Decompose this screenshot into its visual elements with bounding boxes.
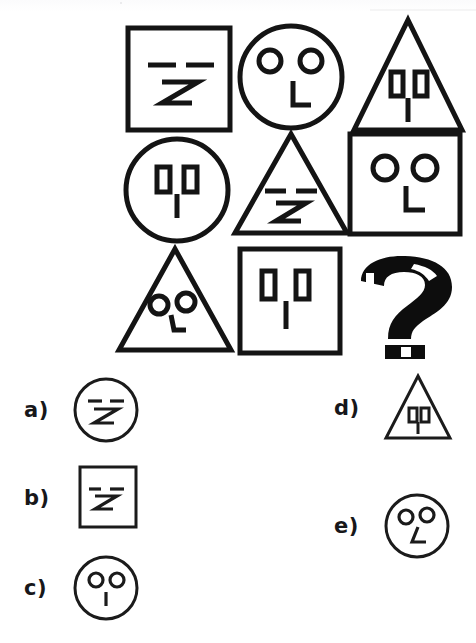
- figure-square-dash-z: [124, 24, 234, 134]
- answer-option-e[interactable]: e): [334, 490, 452, 562]
- scan-artifact: [0, 0, 476, 12]
- answer-option-e-label: e): [334, 516, 374, 537]
- matrix-cell-r2c1: [122, 134, 232, 246]
- answer-option-a-label: a): [24, 400, 64, 421]
- figure-triangle-round-hook: [114, 244, 236, 356]
- figure-triangle-dash-z: [230, 129, 352, 239]
- answer-option-d-figure: [382, 372, 454, 444]
- matrix-cell-r2c3: [346, 130, 464, 240]
- answer-option-b-label: b): [24, 488, 64, 509]
- figure-circle-round-hook-small: [382, 490, 452, 562]
- figure-square-dash-z-small: [72, 464, 140, 532]
- answer-option-c-label: c): [24, 578, 64, 599]
- matrix-cell-r1c3: [349, 14, 467, 136]
- answer-option-d[interactable]: d): [334, 372, 454, 444]
- figure-circle-dash-z: [72, 376, 140, 444]
- answer-option-a[interactable]: a): [24, 376, 140, 444]
- matrix-cell-r3c1: [114, 244, 236, 356]
- figure-circle-round-hook: [237, 19, 345, 135]
- answer-option-c-figure: [72, 552, 140, 624]
- answer-option-b[interactable]: b): [24, 464, 140, 532]
- question-mark-icon: [353, 255, 461, 359]
- figure-triangle-rect-line-small: [382, 372, 454, 444]
- matrix-grid: [108, 12, 468, 357]
- figure-triangle-rect-line: [349, 14, 467, 136]
- figure-circle-rect-line: [122, 134, 232, 246]
- figure-circle-round-line: [72, 552, 140, 624]
- matrix-cell-r2c2: [230, 129, 352, 239]
- answer-options: a) b): [0, 362, 476, 643]
- matrix-cell-r1c2: [237, 19, 345, 135]
- answer-option-d-label: d): [334, 398, 374, 419]
- answer-option-c[interactable]: c): [24, 552, 140, 624]
- puzzle-page: a) b): [0, 0, 476, 643]
- figure-square-rect-line: [236, 245, 344, 357]
- matrix-cell-r3c3-missing[interactable]: [353, 255, 461, 359]
- answer-option-a-figure: [72, 376, 140, 444]
- answer-option-b-figure: [72, 464, 140, 532]
- matrix-cell-r1c1: [124, 24, 234, 134]
- figure-square-round-hook: [346, 130, 464, 240]
- answer-option-e-figure: [382, 490, 452, 562]
- matrix-cell-r3c2: [236, 245, 344, 357]
